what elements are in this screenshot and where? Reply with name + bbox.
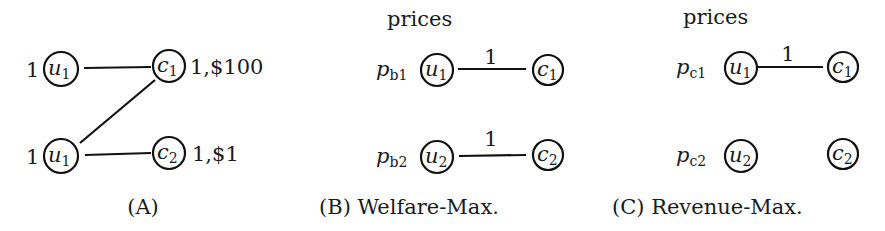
caption-b: (B) Welfare-Max. xyxy=(319,195,499,219)
node-c-u2: u2 xyxy=(725,140,757,172)
node-a-u-top: u1 xyxy=(44,52,78,86)
node-b-u2: u2 xyxy=(421,141,453,173)
svg-text:c2: c2 xyxy=(157,140,178,166)
weight-label-a-u-top: 1 xyxy=(26,58,39,82)
edge-b-u2-c2 xyxy=(459,155,526,156)
svg-text:c2: c2 xyxy=(832,141,853,167)
node-a-u-bottom: u1 xyxy=(44,139,78,173)
svg-text:u1: u1 xyxy=(425,57,447,83)
price-label-b1: pb1 xyxy=(376,57,407,83)
panel-a: 1 u1 1 u1 c1 1,$100 c2 1,$1 (A) xyxy=(26,50,263,219)
svg-text:c1: c1 xyxy=(832,54,853,80)
edge-a-u1top-c1 xyxy=(84,67,151,68)
price-label-c1: pc1 xyxy=(676,55,706,81)
node-c-c1: c1 xyxy=(828,52,858,82)
node-a-c1: c1 xyxy=(153,50,185,82)
svg-text:u1: u1 xyxy=(48,143,70,169)
node-c-u1: u1 xyxy=(725,52,757,84)
panel-b: prices pb1 u1 1 c1 pb2 u2 1 c2 (B) Welfa… xyxy=(319,7,563,219)
svg-text:u1: u1 xyxy=(729,55,751,81)
node-b-c1: c1 xyxy=(533,55,563,85)
svg-text:c1: c1 xyxy=(537,57,558,83)
svg-text:c2: c2 xyxy=(537,142,558,168)
edge-a-u1bottom-c1 xyxy=(80,80,155,143)
annotation-a-c1: 1,$100 xyxy=(190,55,263,79)
price-label-c2: pc2 xyxy=(676,143,706,169)
panel-c: prices pc1 u1 1 c1 pc2 u2 c2 (C) Revenue… xyxy=(612,5,858,219)
header-prices-b: prices xyxy=(387,7,452,31)
edge-label-b-u1-c1: 1 xyxy=(484,45,497,69)
edge-label-c-u1-c1: 1 xyxy=(781,42,794,66)
edge-a-u1bottom-c2 xyxy=(85,153,151,155)
bipartite-pricing-figure: 1 u1 1 u1 c1 1,$100 c2 1,$1 (A) prices p… xyxy=(0,0,885,231)
annotation-a-c2: 1,$1 xyxy=(192,142,239,166)
price-label-b2: pb2 xyxy=(376,144,407,170)
caption-c: (C) Revenue-Max. xyxy=(612,195,803,219)
node-b-c2: c2 xyxy=(533,140,563,170)
svg-text:u2: u2 xyxy=(425,144,447,170)
weight-label-a-u-bottom: 1 xyxy=(26,145,39,169)
edge-label-b-u2-c2: 1 xyxy=(484,127,497,151)
caption-a: (A) xyxy=(127,195,159,219)
node-b-u1: u1 xyxy=(421,54,453,86)
svg-text:c1: c1 xyxy=(157,53,178,79)
header-prices-c: prices xyxy=(683,5,748,29)
node-c-c2: c2 xyxy=(828,139,858,169)
svg-text:u2: u2 xyxy=(729,143,751,169)
node-a-c2: c2 xyxy=(153,137,185,169)
svg-text:u1: u1 xyxy=(48,56,70,82)
